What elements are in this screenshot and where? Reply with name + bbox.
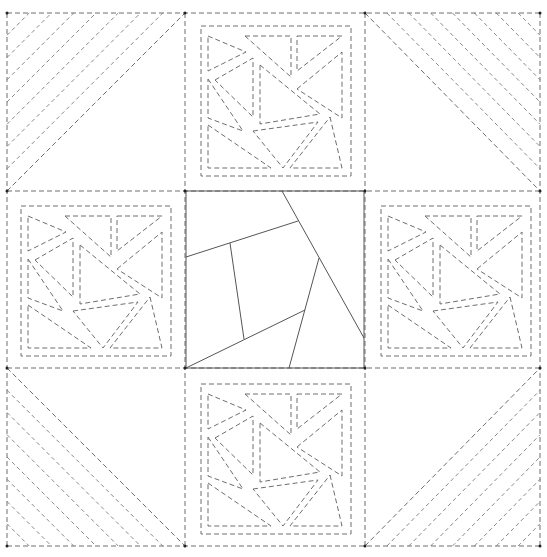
block-piece [297, 410, 342, 476]
block-frame [201, 384, 351, 534]
corner-echo-line [7, 413, 141, 547]
block-piece [208, 125, 271, 168]
corner-echo-line [7, 457, 96, 546]
corner-echo-line [474, 13, 540, 80]
side-block-left [21, 206, 171, 356]
center-frame [186, 191, 364, 368]
block-piece [425, 216, 471, 257]
corner-echo-line [409, 13, 540, 147]
corner-echo-line [518, 13, 540, 35]
corner-echo-line [7, 502, 52, 547]
grid-dot [539, 367, 542, 370]
corner-echo-line [431, 435, 540, 546]
block-piece [388, 259, 423, 311]
grid-dot [184, 367, 187, 370]
block-piece [440, 245, 500, 304]
block-piece [208, 36, 246, 71]
block-piece [117, 232, 162, 298]
center-seam [230, 243, 244, 339]
side-blocks [21, 26, 531, 534]
block-piece [215, 416, 253, 475]
block-piece [117, 216, 162, 251]
block-piece [433, 302, 498, 348]
side-block-right [381, 206, 531, 356]
block-piece [208, 483, 271, 526]
grid-dot [539, 190, 542, 193]
block-piece [28, 305, 91, 348]
corner-echo-line [474, 479, 540, 546]
block-piece [208, 79, 243, 131]
block-piece [245, 394, 291, 435]
block-piece [253, 480, 318, 526]
corner-echo-line [7, 479, 74, 546]
corner-echo-line [431, 13, 540, 124]
block-piece [28, 259, 63, 311]
corner-echo-line [7, 13, 163, 169]
grid-dot [364, 367, 367, 370]
corner-echo-line [7, 13, 52, 58]
block-piece [208, 394, 246, 429]
corner-diagonal [7, 368, 185, 546]
block-piece [80, 245, 140, 304]
corner-echo-line [496, 502, 540, 547]
block-frame [21, 206, 171, 356]
corner-echo-line [7, 13, 141, 147]
corner-bottom-left [7, 368, 185, 546]
corner-diagonal [365, 13, 540, 191]
grid-dot [6, 367, 9, 370]
grid-dot [364, 545, 367, 548]
quilt-diagram [0, 0, 547, 557]
corner-bottom-right [365, 368, 540, 546]
corner-triangles [7, 13, 540, 546]
corner-echo-line [7, 13, 29, 35]
center-seam [186, 310, 305, 368]
grid-dot [364, 190, 367, 193]
corner-echo-line [7, 524, 29, 546]
block-piece [260, 65, 320, 124]
corner-echo-line [7, 435, 118, 546]
block-frame [201, 26, 351, 176]
block-piece [28, 216, 66, 251]
side-block-top [201, 26, 351, 176]
center-seam [282, 191, 364, 338]
block-piece [297, 52, 342, 118]
corner-echo-line [409, 413, 540, 547]
side-block-bottom [201, 384, 351, 534]
corner-top-left [7, 13, 185, 191]
block-piece [477, 232, 522, 298]
block-piece [260, 423, 320, 482]
block-piece [395, 238, 433, 297]
corner-echo-line [453, 13, 541, 102]
corner-echo-line [7, 13, 74, 80]
grid-dot [6, 12, 9, 15]
center-seam [186, 221, 298, 257]
corner-echo-line [7, 13, 96, 102]
corner-echo-line [387, 13, 540, 169]
center-block [186, 191, 364, 368]
grid-dot [539, 12, 542, 15]
corner-echo-line [453, 457, 541, 546]
block-piece [253, 122, 318, 168]
block-piece [297, 394, 342, 429]
block-grid [7, 13, 540, 546]
corner-echo-line [7, 390, 163, 546]
corner-echo-line [496, 13, 540, 58]
grid-dot [184, 545, 187, 548]
corner-diagonal [365, 368, 540, 546]
block-piece [215, 58, 253, 117]
block-piece [297, 36, 342, 71]
grid-dot [184, 12, 187, 15]
block-piece [477, 216, 522, 251]
corner-echo-line [518, 524, 540, 546]
grid-dot [6, 190, 9, 193]
center-seam [289, 258, 319, 368]
grid-dot [6, 545, 9, 548]
block-piece [388, 216, 426, 251]
block-piece [65, 216, 111, 257]
grid-dot [364, 12, 367, 15]
grid-intersection-dots [6, 12, 542, 548]
block-piece [245, 36, 291, 77]
corner-diagonal [7, 13, 185, 191]
corner-echo-line [7, 13, 118, 124]
grid-dot [184, 190, 187, 193]
